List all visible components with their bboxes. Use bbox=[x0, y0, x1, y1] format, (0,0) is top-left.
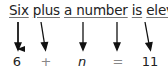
symbol-plus: + bbox=[41, 54, 52, 69]
symbol-eleven: 11 bbox=[142, 54, 159, 69]
symbol-six: 6 bbox=[13, 54, 21, 69]
symbol-n: n bbox=[78, 54, 86, 69]
symbol-equals: = bbox=[113, 54, 124, 69]
